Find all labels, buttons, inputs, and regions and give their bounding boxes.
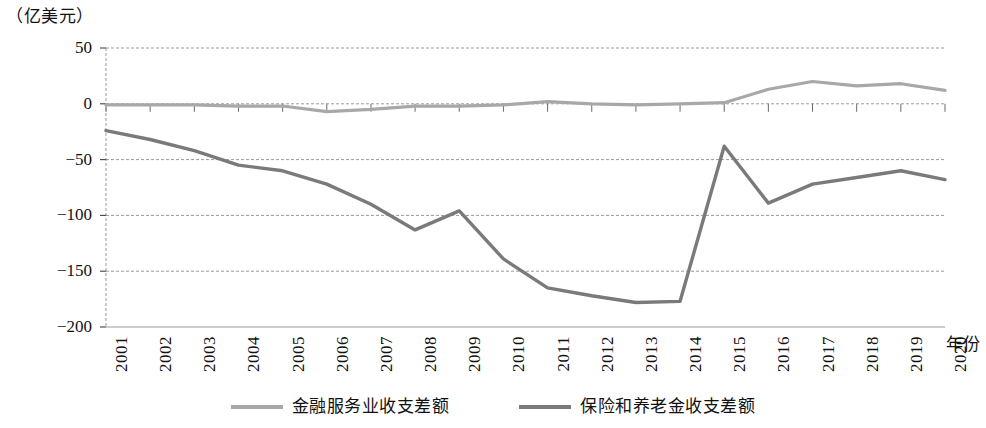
legend-label: 保险和养老金收支差额 xyxy=(580,398,755,415)
x-tick-label: 2005 xyxy=(290,336,307,372)
legend-line-swatch xyxy=(519,405,571,409)
x-axis-title: 年份 xyxy=(946,336,980,353)
x-tick-label: 2015 xyxy=(731,336,748,372)
x-tick-label: 2017 xyxy=(820,336,837,372)
x-tick-label: 2004 xyxy=(245,336,262,372)
legend-line-swatch xyxy=(231,405,283,409)
x-tick-label: 2001 xyxy=(113,336,130,372)
legend-item[interactable]: 保险和养老金收支差额 xyxy=(519,398,755,415)
legend-label: 金融服务业收支差额 xyxy=(292,398,450,415)
chart-legend: 金融服务业收支差额保险和养老金收支差额 xyxy=(0,398,986,415)
x-tick-label: 2010 xyxy=(510,336,527,372)
x-tick-label: 2011 xyxy=(555,336,572,371)
x-tick-label: 2013 xyxy=(643,336,660,372)
x-tick-label: 2008 xyxy=(422,336,439,372)
x-tick-label: 2012 xyxy=(599,336,616,372)
x-tick-label: 2009 xyxy=(466,336,483,372)
x-tick-label: 2014 xyxy=(687,336,704,372)
x-tick-label: 2018 xyxy=(864,336,881,372)
x-tick-label: 2003 xyxy=(201,336,218,372)
chart-figure: （亿美元） 500−50−100−150−200 200120022003200… xyxy=(0,0,986,428)
x-axis-tick-labels: 2001200220032004200520062007200820092010… xyxy=(0,0,986,428)
x-tick-label: 2007 xyxy=(378,336,395,372)
x-tick-label: 2019 xyxy=(908,336,925,372)
x-tick-label: 2016 xyxy=(775,336,792,372)
x-tick-label: 2006 xyxy=(334,336,351,372)
legend-item[interactable]: 金融服务业收支差额 xyxy=(231,398,450,415)
x-tick-label: 2002 xyxy=(157,336,174,372)
